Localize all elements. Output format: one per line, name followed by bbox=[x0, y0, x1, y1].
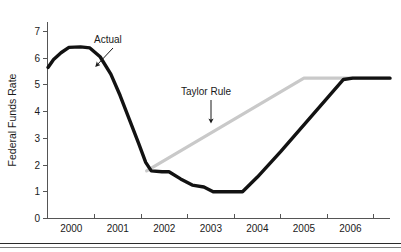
x-tick-label: 2001 bbox=[107, 223, 130, 234]
x-tick-label: 2005 bbox=[293, 223, 316, 234]
y-tick-label: 7 bbox=[34, 26, 40, 37]
x-tick-label: 2000 bbox=[60, 223, 83, 234]
y-tick-label: 6 bbox=[34, 53, 40, 64]
chart-background bbox=[0, 0, 401, 252]
y-tick-label: 2 bbox=[34, 160, 40, 171]
y-axis-title: Federal Funds Rate bbox=[6, 73, 18, 166]
y-tick-label: 4 bbox=[34, 106, 40, 117]
x-tick-label: 2004 bbox=[246, 223, 269, 234]
federal-funds-rate-chart: 01234567 Federal Funds Rate 200020012002… bbox=[0, 0, 401, 252]
annotation-label: Actual bbox=[94, 34, 122, 45]
y-tick-label: 3 bbox=[34, 133, 40, 144]
x-tick-label: 2002 bbox=[153, 223, 176, 234]
y-tick-label: 0 bbox=[34, 213, 40, 224]
y-tick-label: 5 bbox=[34, 79, 40, 90]
figure-container: 01234567 Federal Funds Rate 200020012002… bbox=[0, 0, 401, 252]
x-tick-label: 2003 bbox=[200, 223, 223, 234]
x-tick-label: 2006 bbox=[339, 223, 362, 234]
annotation-label: Taylor Rule bbox=[181, 86, 231, 97]
y-tick-label: 1 bbox=[34, 186, 40, 197]
